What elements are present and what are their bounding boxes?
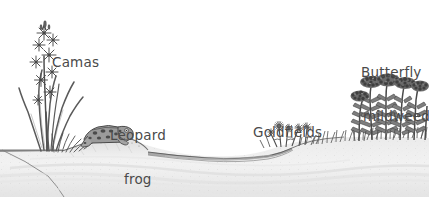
label-goldfields: Goldfields <box>253 96 322 169</box>
label-butterfly-milkweed-line2: mildweed <box>361 109 429 124</box>
label-butterfly-milkweed: Butterfly mildweed <box>361 36 429 152</box>
label-leopard-frog-line1: Leopard <box>110 128 166 143</box>
label-camas-line1: Camas <box>52 55 99 70</box>
label-goldfields-line1: Goldfields <box>253 125 322 140</box>
habitat-illustration: Camas Leopard frog Goldfields Butterfly … <box>0 0 429 197</box>
label-leopard-frog: Leopard frog <box>110 99 166 197</box>
label-leopard-frog-line2: frog <box>110 172 166 187</box>
label-camas: Camas <box>52 26 99 99</box>
label-butterfly-milkweed-line1: Butterfly <box>361 65 429 80</box>
